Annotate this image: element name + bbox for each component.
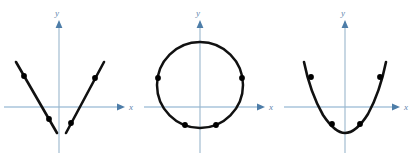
axes-group: x y xyxy=(4,8,133,153)
y-axis-label: y xyxy=(195,8,200,18)
y-axis-arrowhead xyxy=(56,20,63,28)
marked-point xyxy=(68,120,74,126)
marked-point xyxy=(239,75,245,81)
marked-point xyxy=(377,74,383,80)
y-axis-arrowhead xyxy=(342,20,349,28)
marked-point xyxy=(329,121,335,127)
y-axis-arrowhead xyxy=(197,20,204,28)
marked-point xyxy=(155,75,161,81)
marked-point xyxy=(213,122,219,128)
left-branch-curve xyxy=(16,62,57,133)
axes-group: x y xyxy=(284,8,408,153)
graph-panel-v-branches: x y xyxy=(0,0,140,163)
marked-point xyxy=(182,122,188,128)
graph-panel-parabola: x y xyxy=(280,0,414,163)
y-axis-label: y xyxy=(54,8,59,18)
figure-row: x y x y xyxy=(0,0,414,163)
marked-point xyxy=(21,73,27,79)
x-axis-label: x xyxy=(268,102,273,112)
graph-panel-circle: x y xyxy=(140,0,280,163)
x-axis-arrowhead xyxy=(392,104,400,111)
marked-point xyxy=(46,116,52,122)
x-axis-label: x xyxy=(128,102,133,112)
axes-group: x y xyxy=(144,8,273,153)
curve-group xyxy=(16,62,104,133)
marked-point xyxy=(308,74,314,80)
x-axis-label: x xyxy=(403,102,408,112)
y-axis-label: y xyxy=(340,8,345,18)
x-axis-arrowhead xyxy=(257,104,265,111)
x-axis-arrowhead xyxy=(117,104,125,111)
marked-point xyxy=(357,121,363,127)
marked-point xyxy=(92,75,98,81)
